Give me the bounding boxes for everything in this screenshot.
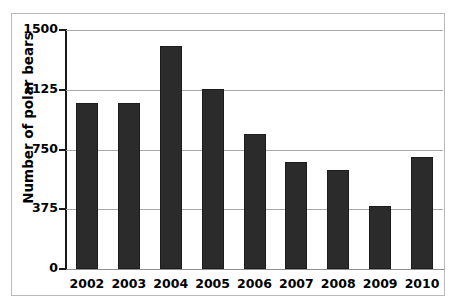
bar: [118, 103, 140, 269]
bar: [202, 89, 224, 269]
y-axis-tick-mark: [59, 208, 66, 210]
bar: [369, 206, 391, 269]
bar-chart-figure: Number of polar bears 037575011251500 20…: [0, 0, 456, 307]
y-axis-tick-labels: 037575011251500: [0, 0, 58, 307]
y-axis-tick-mark: [59, 149, 66, 151]
bar: [411, 157, 433, 269]
y-axis-tick-mark: [59, 89, 66, 91]
bar: [160, 46, 182, 269]
plot-area: [66, 30, 443, 269]
y-axis-tick-label: 1500: [0, 23, 58, 35]
bar: [327, 170, 349, 269]
bar: [285, 162, 307, 269]
y-axis-tick-mark: [59, 29, 66, 31]
y-axis-tick-label: 1125: [0, 83, 58, 95]
bar: [76, 103, 98, 269]
y-axis-tick-mark: [59, 268, 66, 270]
y-axis-tick-label: 375: [0, 202, 58, 214]
gridline: [66, 30, 443, 31]
x-axis-line: [66, 269, 444, 270]
gridline: [66, 90, 443, 91]
bar: [244, 134, 266, 269]
y-axis-tick-label: 0: [0, 262, 58, 274]
y-axis-tick-label: 750: [0, 143, 58, 155]
x-axis-tick-label: 2010: [395, 276, 449, 291]
